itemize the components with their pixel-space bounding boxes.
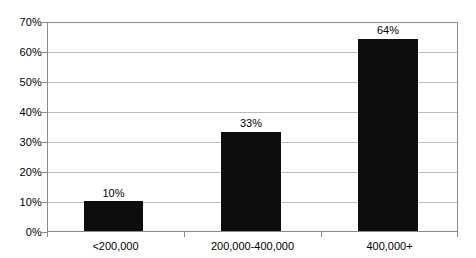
bar-data-label-0: 10% [83,188,144,199]
x-tick-mark-1 [184,232,185,237]
x-tick-mark-2 [321,232,322,237]
bar-category-1 [221,132,281,231]
bar-category-0 [84,201,143,231]
x-tick-mark-3 [457,232,458,237]
x-category-label-2: 400,000+ [321,240,458,252]
bar-data-label-2: 64% [357,25,419,36]
x-category-label-1: 200,000-400,000 [184,240,321,252]
y-tick-label-20: 20% [2,167,42,178]
y-tick-label-60: 60% [2,47,42,58]
bar-category-2 [358,39,418,231]
y-tick-label-30: 30% [2,137,42,148]
y-tick-label-40: 40% [2,107,42,118]
y-tick-label-50: 50% [2,77,42,88]
y-tick-label-70: 70% [2,17,42,28]
x-tick-mark-0 [47,232,48,237]
x-category-label-0: <200,000 [47,240,184,252]
y-tick-label-10: 10% [2,197,42,208]
y-tick-label-0: 0% [2,227,42,238]
y-axis: 70% 60% 50% 40% 30% 20% 10% 0% [0,0,42,258]
bar-chart: 70% 60% 50% 40% 30% 20% 10% 0% 10% 33% 6… [0,0,476,258]
bar-data-label-1: 33% [220,118,282,129]
